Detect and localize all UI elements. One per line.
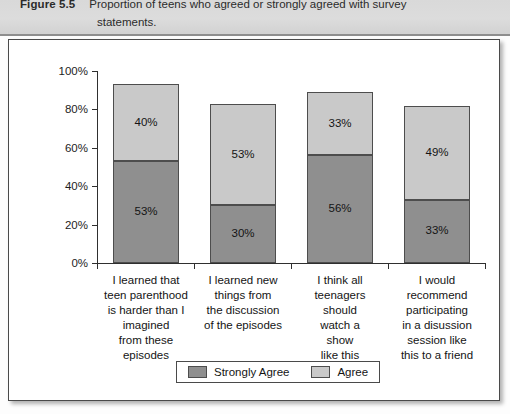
y-axis-tick-label: 80% xyxy=(65,103,88,115)
bar-value-label: 56% xyxy=(328,202,351,214)
legend-swatch xyxy=(311,366,330,378)
bar-segment-agree[interactable]: 40% xyxy=(113,84,179,161)
bar-group[interactable]: 56%33% xyxy=(307,92,373,263)
category-label: I wouldrecommendparticipatingin a disuss… xyxy=(389,273,485,363)
y-axis-tick-label: 100% xyxy=(59,65,88,77)
figure-number: Figure 5.5 xyxy=(20,0,75,10)
category-labels: I learned thatteen parenthoodis harder t… xyxy=(97,273,485,373)
bar-value-label: 33% xyxy=(425,224,448,236)
category-label: I think allteenagersshouldwatch ashowlik… xyxy=(292,273,388,363)
legend-label: Agree xyxy=(337,366,368,378)
bar-value-label: 40% xyxy=(134,116,157,128)
bar-group[interactable]: 53%40% xyxy=(113,84,179,263)
y-axis-tick-label: 40% xyxy=(65,180,88,192)
bar-segment-strongly-agree[interactable]: 33% xyxy=(404,200,470,263)
bar-segment-agree[interactable]: 49% xyxy=(404,106,470,200)
x-axis-tick-mark xyxy=(97,263,98,269)
bar-segment-strongly-agree[interactable]: 30% xyxy=(210,205,276,263)
figure-caption-line-2: statements. xyxy=(97,14,156,30)
category-label: I learned thatteen parenthoodis harder t… xyxy=(98,273,194,363)
y-axis-tick-mark xyxy=(92,109,97,110)
legend-entry[interactable]: Agree xyxy=(311,366,368,378)
bar-segment-agree[interactable]: 53% xyxy=(210,104,276,206)
figure-panel: 0%20%40%60%80%100% 53%40%30%53%56%33%33%… xyxy=(8,39,500,401)
bar-value-label: 49% xyxy=(425,146,448,158)
legend-label: Strongly Agree xyxy=(214,366,289,378)
bar-value-label: 30% xyxy=(231,227,254,239)
y-axis-tick-mark xyxy=(92,186,97,187)
bar-value-label: 53% xyxy=(231,148,254,160)
legend-entry[interactable]: Strongly Agree xyxy=(188,366,289,378)
x-axis-tick-mark xyxy=(388,263,389,269)
figure-caption-band: Figure 5.5Proportion of teens who agreed… xyxy=(0,0,510,36)
y-axis-line xyxy=(97,71,98,264)
category-label: I learned newthings fromthe discussionof… xyxy=(195,273,291,333)
x-axis-tick-mark xyxy=(485,263,486,269)
y-axis-tick-label: 60% xyxy=(65,142,88,154)
bar-group[interactable]: 30%53% xyxy=(210,104,276,263)
bar-segment-strongly-agree[interactable]: 53% xyxy=(113,161,179,263)
bar-value-label: 53% xyxy=(134,205,157,217)
x-axis-tick-mark xyxy=(291,263,292,269)
figure-caption-line-1: Figure 5.5Proportion of teens who agreed… xyxy=(20,0,500,12)
y-axis-tick-label: 0% xyxy=(71,257,88,269)
bar-segment-strongly-agree[interactable]: 56% xyxy=(307,155,373,263)
y-axis-tick-mark xyxy=(92,225,97,226)
plot-area: 0%20%40%60%80%100% 53%40%30%53%56%33%33%… xyxy=(97,71,485,263)
y-axis-tick-mark xyxy=(92,148,97,149)
bar-group[interactable]: 33%49% xyxy=(404,106,470,263)
figure-caption-text: Proportion of teens who agreed or strong… xyxy=(89,0,406,10)
legend-swatch xyxy=(188,366,207,378)
chart-legend: Strongly AgreeAgree xyxy=(176,361,380,383)
bar-segment-agree[interactable]: 33% xyxy=(307,92,373,155)
y-axis-tick-label: 20% xyxy=(65,219,88,231)
y-axis-tick-mark xyxy=(92,71,97,72)
x-axis-tick-mark xyxy=(194,263,195,269)
bar-value-label: 33% xyxy=(328,117,351,129)
